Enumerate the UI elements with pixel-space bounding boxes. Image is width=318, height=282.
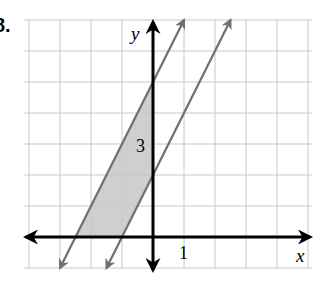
problem-number: 8. [0,14,11,37]
y-tick-label-3: 3 [136,136,145,156]
y-axis-label: y [129,23,140,44]
coordinate-plane: y x 1 3 [0,0,318,282]
graph-figure: 8. [0,0,318,282]
x-axis-label: x [295,245,305,266]
x-tick-label-1: 1 [179,243,188,263]
